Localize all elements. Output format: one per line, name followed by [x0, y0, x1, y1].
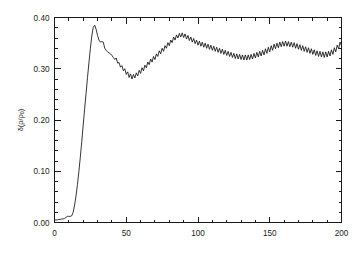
x-tick-label: 50 [122, 229, 132, 238]
y-tick-label: 0.30 [34, 65, 50, 74]
x-tick-label: 100 [191, 229, 205, 238]
y-axis-title-text: δ(ρ/ρ0) [16, 109, 26, 132]
y-tick-label: 0.00 [34, 219, 50, 228]
x-tick-label: 0 [52, 229, 57, 238]
figure-container: 050100150200 0.000.100.200.300.40 δ(ρ/ρ0… [0, 0, 362, 256]
y-tick-label: 0.40 [34, 14, 50, 23]
line-chart: 050100150200 0.000.100.200.300.40 δ(ρ/ρ0… [0, 0, 362, 256]
y-tick-label: 0.10 [34, 167, 50, 176]
y-axis-title: δ(ρ/ρ0) [16, 109, 26, 132]
x-tick-label: 150 [263, 229, 277, 238]
y-tick-label: 0.20 [34, 116, 50, 125]
x-tick-label: 200 [335, 229, 349, 238]
